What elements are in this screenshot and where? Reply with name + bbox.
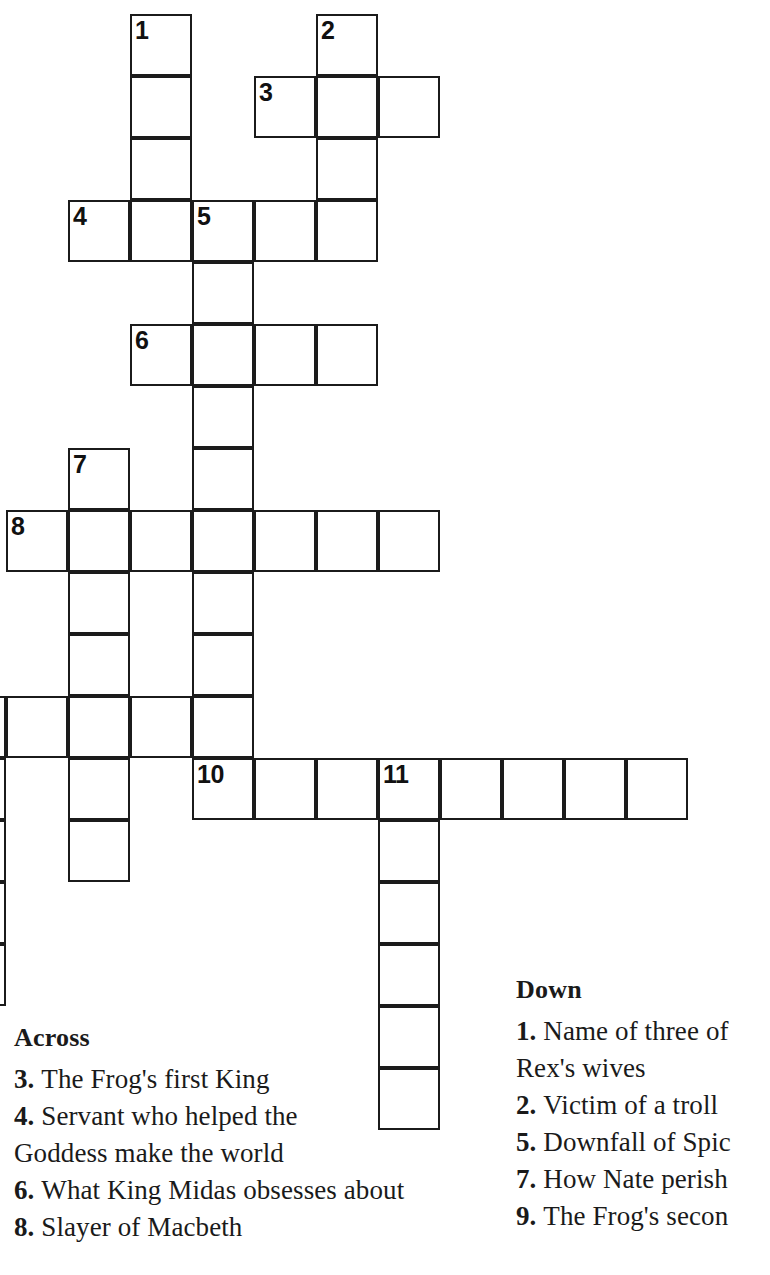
clue-text: How Nate perish bbox=[543, 1164, 727, 1194]
down-clue-7: 7. How Nate perish bbox=[516, 1161, 770, 1198]
clue-text: Name of three of bbox=[543, 1016, 728, 1046]
down-clue-2: 2. Victim of a troll bbox=[516, 1087, 770, 1124]
clue-text: Servant who helped the bbox=[41, 1101, 297, 1131]
down-clue-list: 1. Name of three ofRex's wives2. Victim … bbox=[516, 1013, 770, 1235]
across-clue-6: 6. What King Midas obsesses about bbox=[14, 1172, 494, 1209]
clue-number: 4. bbox=[14, 1101, 41, 1131]
clue-text: What King Midas obsesses about bbox=[41, 1175, 404, 1205]
down-clue-column: Down 1. Name of three ofRex's wives2. Vi… bbox=[516, 975, 770, 1235]
clue-lists: Across 3. The Frog's first King4. Servan… bbox=[0, 0, 770, 1275]
down-clue-1: 1. Name of three of bbox=[516, 1013, 770, 1050]
across-heading: Across bbox=[14, 1023, 494, 1053]
across-clue-4: 4. Servant who helped the bbox=[14, 1098, 494, 1135]
clue-number: 2. bbox=[516, 1090, 543, 1120]
clue-number: 1. bbox=[516, 1016, 543, 1046]
clue-text: Slayer of Macbeth bbox=[41, 1212, 242, 1242]
clue-number: 5. bbox=[516, 1127, 543, 1157]
clue-text: Downfall of Spic bbox=[543, 1127, 731, 1157]
across-clue-4-cont: Goddess make the world bbox=[14, 1135, 494, 1172]
across-clue-column: Across 3. The Frog's first King4. Servan… bbox=[14, 1023, 494, 1246]
down-heading: Down bbox=[516, 975, 770, 1005]
down-clue-5: 5. Downfall of Spic bbox=[516, 1124, 770, 1161]
down-clue-9: 9. The Frog's secon bbox=[516, 1198, 770, 1235]
clue-text: The Frog's first King bbox=[41, 1064, 269, 1094]
clue-number: 3. bbox=[14, 1064, 41, 1094]
clue-number: 7. bbox=[516, 1164, 543, 1194]
clue-text: Rex's wives bbox=[516, 1053, 646, 1083]
across-clue-3: 3. The Frog's first King bbox=[14, 1061, 494, 1098]
clue-number: 8. bbox=[14, 1212, 41, 1242]
down-clue-1-cont: Rex's wives bbox=[516, 1050, 770, 1087]
clue-number: 9. bbox=[516, 1201, 543, 1231]
clue-text: The Frog's secon bbox=[543, 1201, 728, 1231]
clue-text: Goddess make the world bbox=[14, 1138, 284, 1168]
across-clue-8: 8. Slayer of Macbeth bbox=[14, 1209, 494, 1246]
clue-text: Victim of a troll bbox=[543, 1090, 718, 1120]
clue-number: 6. bbox=[14, 1175, 41, 1205]
across-clue-list: 3. The Frog's first King4. Servant who h… bbox=[14, 1061, 494, 1246]
